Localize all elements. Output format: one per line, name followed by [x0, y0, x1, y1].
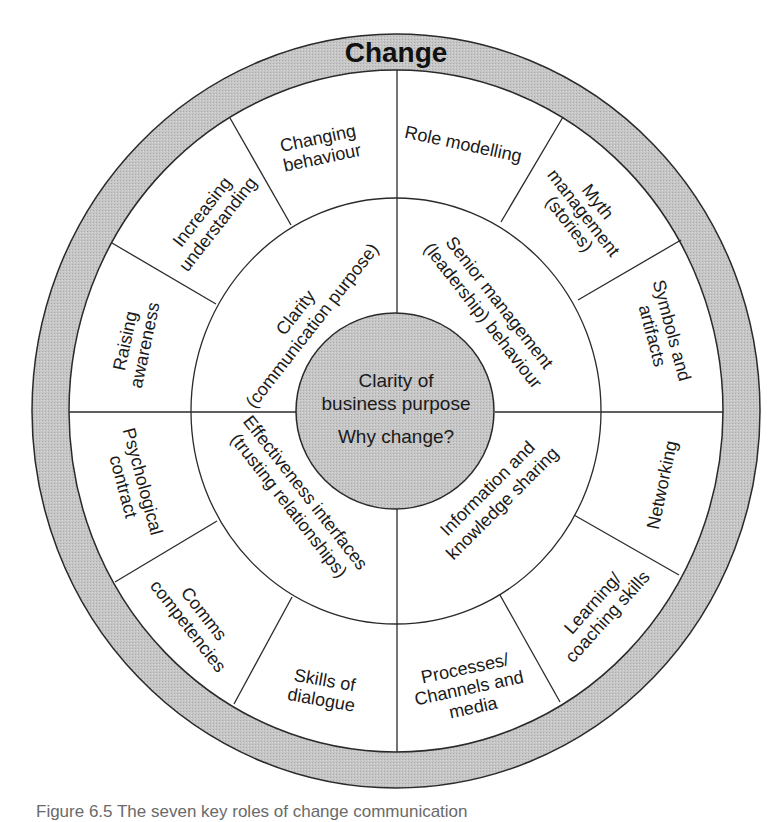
svg-text:business purpose: business purpose: [322, 393, 471, 414]
diagram-title: Change: [345, 37, 448, 68]
svg-text:Clarity of: Clarity of: [359, 370, 435, 391]
svg-text:Why change?: Why change?: [338, 426, 454, 447]
figure-caption: Figure 6.5 The seven key roles of change…: [36, 802, 468, 822]
